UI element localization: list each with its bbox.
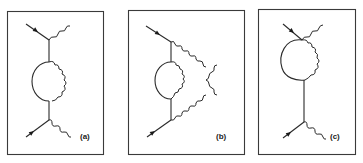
loop-photon [49, 61, 66, 101]
loop-fermion [155, 62, 171, 99]
loop-photon [171, 62, 184, 99]
fermion-line [26, 24, 49, 40]
panel-label: (b) [216, 132, 227, 141]
fermion-line [147, 120, 171, 137]
loop-fermion [32, 62, 49, 101]
photon-line [49, 26, 70, 40]
photon-line [49, 120, 71, 137]
panel-c-frame [259, 10, 356, 155]
panel-label: (c) [330, 132, 340, 141]
fermion-line [283, 122, 304, 138]
panel-a: (a) [8, 12, 104, 155]
photon-line [206, 80, 217, 95]
panel-label: (a) [80, 132, 90, 141]
panel-b-frame [129, 11, 245, 155]
photon-line [171, 95, 206, 120]
loop-fermion [281, 40, 305, 80]
photon-line [171, 41, 206, 67]
loop-photon [302, 40, 319, 80]
arrow-icon [155, 30, 162, 36]
panel-b: (b) [129, 11, 245, 155]
panel-c: (c) [259, 10, 356, 155]
photon-line [206, 65, 217, 80]
feynman-diagrams: (a) (b) [0, 0, 363, 163]
fermion-line [26, 120, 49, 137]
photon-line [302, 25, 323, 40]
photon-line [304, 122, 326, 139]
